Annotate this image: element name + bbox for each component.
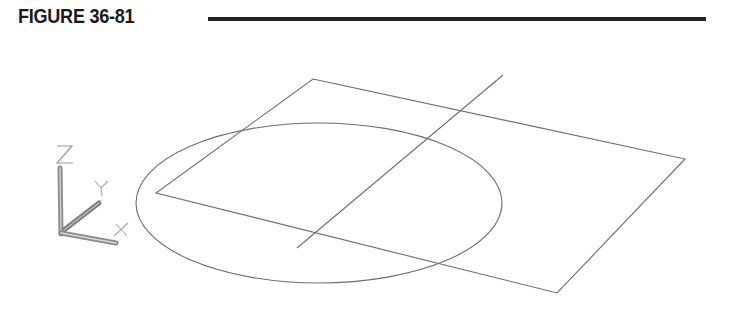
ellipse-circle xyxy=(136,123,502,283)
ucs-z-axis xyxy=(60,168,61,234)
wireframe-geometry xyxy=(136,75,685,293)
cad-drawing: Z Y X xyxy=(0,0,729,309)
diagonal-line xyxy=(297,75,503,248)
ucs-x-axis xyxy=(61,233,116,243)
ucs-x-label: X xyxy=(0,0,128,236)
ucs-y-label: Y xyxy=(0,0,108,196)
ucs-z-label: Z xyxy=(0,0,73,163)
parallelogram-plane xyxy=(156,79,685,293)
ucs-y-axis xyxy=(64,203,99,230)
ucs-icon: Z Y X xyxy=(0,0,128,243)
